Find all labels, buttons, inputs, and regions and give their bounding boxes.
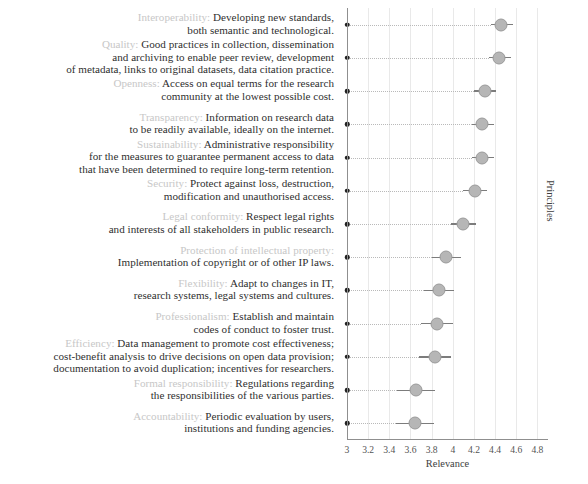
principle-label-line: cost-benefit analysis to drive decisions… xyxy=(53,350,334,363)
principle-label: Sustainability: Administrative responsib… xyxy=(79,138,334,176)
principle-description: Adapt to changes in IT, xyxy=(228,277,334,289)
principle-label-line: documentation to avoid duplication; ince… xyxy=(53,362,334,375)
principle-description: institutions and funding agencies. xyxy=(184,422,334,434)
data-point[interactable] xyxy=(409,384,422,397)
principle-description: cost-benefit analysis to drive decisions… xyxy=(54,350,334,362)
gridline-x xyxy=(516,8,517,440)
x-tick-label: 3.6 xyxy=(404,444,416,455)
principle-label: Quality: Good practices in collection, d… xyxy=(66,38,334,76)
data-point[interactable] xyxy=(408,417,421,430)
connector-line xyxy=(347,158,472,159)
principle-label: Efficiency: Data management to promote c… xyxy=(53,337,334,375)
principle-label-line: Openness: Access on equal terms for the … xyxy=(113,77,334,90)
principle-name: Security: xyxy=(147,177,187,189)
x-axis-line xyxy=(347,439,548,440)
principle-name: Efficiency: xyxy=(65,337,114,349)
principle-name: Professionalism: xyxy=(155,310,229,322)
principle-name: Flexibility: xyxy=(178,277,228,289)
principle-label-line: Interoperability: Developing new standar… xyxy=(138,11,334,24)
data-point[interactable] xyxy=(493,51,506,64)
principle-name: Interoperability: xyxy=(138,11,210,23)
connector-line xyxy=(347,58,489,59)
principle-label-line: for the measures to guarantee permanent … xyxy=(79,150,334,163)
principle-label-line: Security: Protect against loss, destruct… xyxy=(147,177,334,190)
gridline-x xyxy=(495,8,496,440)
x-tick-label: 3 xyxy=(345,444,350,455)
x-tick-label: 3.8 xyxy=(426,444,438,455)
relevance-dotplot-figure: Interoperability: Developing new standar… xyxy=(0,0,588,484)
x-tick-label: 3.2 xyxy=(362,444,374,455)
principle-name: Formal responsibility: xyxy=(134,377,233,389)
principle-label-line: and archiving to enable peer review, dev… xyxy=(66,51,334,64)
data-point[interactable] xyxy=(457,218,470,231)
plot-panel xyxy=(347,8,548,440)
connector-line xyxy=(347,324,421,325)
principle-description: codes of conduct to foster trust. xyxy=(193,323,334,335)
connector-line xyxy=(347,91,474,92)
data-point[interactable] xyxy=(478,85,491,98)
data-point[interactable] xyxy=(495,18,508,31)
principle-label-line: modification and unauthorised access. xyxy=(147,190,334,203)
data-point[interactable] xyxy=(430,317,443,330)
data-point[interactable] xyxy=(428,350,441,363)
gridline-x xyxy=(537,8,538,440)
principle-description: modification and unauthorised access. xyxy=(164,190,334,202)
principle-description: Protect against loss, destruction, xyxy=(187,177,334,189)
connector-line xyxy=(347,124,472,125)
connector-line xyxy=(347,390,397,391)
principle-label-line: Legal conformity: Respect legal rights xyxy=(109,210,334,223)
principle-description: the responsibilities of the various part… xyxy=(151,389,334,401)
principle-label-line: that have been determined to require lon… xyxy=(79,163,334,176)
principle-label: Transparency: Information on research da… xyxy=(129,111,334,136)
principle-name: Openness: xyxy=(113,77,159,89)
principle-label-line: Accountability: Periodic evaluation by u… xyxy=(133,410,334,423)
data-point[interactable] xyxy=(469,184,482,197)
data-point[interactable] xyxy=(440,251,453,264)
x-axis-label: Relevance xyxy=(347,458,548,469)
principle-label-line: Quality: Good practices in collection, d… xyxy=(66,38,334,51)
principle-label-line: community at the lowest possible cost. xyxy=(113,90,334,103)
principle-label-column: Interoperability: Developing new standar… xyxy=(0,0,339,440)
principle-label-line: Protection of intellectual property: xyxy=(118,244,334,257)
principle-description: Implementation of copyright or of other … xyxy=(118,256,334,268)
principle-description: and interests of all stakeholders in pub… xyxy=(109,223,334,235)
principle-label-line: Sustainability: Administrative responsib… xyxy=(79,138,334,151)
y-axis-label: Principles xyxy=(545,180,556,222)
x-tick-label: 3.4 xyxy=(383,444,395,455)
principle-label: Security: Protect against loss, destruct… xyxy=(147,177,334,202)
principle-description: Developing new standards, xyxy=(210,11,334,23)
principle-description: Data management to promote cost effectiv… xyxy=(115,337,334,349)
principle-description: documentation to avoid duplication; ince… xyxy=(53,362,334,374)
principle-name: Protection of intellectual property: xyxy=(180,244,334,256)
principle-description: Regulations regarding xyxy=(233,377,335,389)
x-tick-label: 4.4 xyxy=(489,444,501,455)
principle-description: Periodic evaluation by users, xyxy=(202,410,334,422)
connector-line xyxy=(347,224,451,225)
principle-label-line: codes of conduct to foster trust. xyxy=(155,323,334,336)
connector-line xyxy=(347,257,432,258)
principle-label-line: both semantic and technological. xyxy=(138,24,334,37)
connector-line xyxy=(347,25,491,26)
principle-label: Formal responsibility: Regulations regar… xyxy=(134,377,334,402)
principle-description: Respect legal rights xyxy=(243,210,334,222)
principle-label: Professionalism: Establish and maintainc… xyxy=(155,310,334,335)
principle-description: of metadata, links to original datasets,… xyxy=(66,63,334,75)
principle-label: Legal conformity: Respect legal rightsan… xyxy=(109,210,334,235)
x-tick-label: 4 xyxy=(450,444,455,455)
principle-label-line: Flexibility: Adapt to changes in IT, xyxy=(134,277,334,290)
data-point[interactable] xyxy=(433,284,446,297)
principle-label-line: and interests of all stakeholders in pub… xyxy=(109,223,334,236)
principle-label-line: Professionalism: Establish and maintain xyxy=(155,310,334,323)
principle-label-line: to be readily available, ideally on the … xyxy=(129,123,334,136)
principle-name: Transparency: xyxy=(139,111,202,123)
data-point[interactable] xyxy=(476,151,489,164)
principle-label-line: Implementation of copyright or of other … xyxy=(118,256,334,269)
principle-label-line: of metadata, links to original datasets,… xyxy=(66,63,334,76)
principle-name: Legal conformity: xyxy=(163,210,244,222)
principle-description: Information on research data xyxy=(203,111,334,123)
principle-name: Quality: xyxy=(102,38,139,50)
connector-line xyxy=(347,357,419,358)
principle-description: both semantic and technological. xyxy=(187,24,334,36)
data-point[interactable] xyxy=(476,118,489,131)
principle-label-line: Transparency: Information on research da… xyxy=(129,111,334,124)
